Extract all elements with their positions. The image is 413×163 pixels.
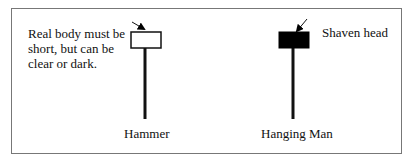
shaven-head-arrow-icon bbox=[297, 19, 307, 31]
hammer-label: Hammer bbox=[124, 126, 169, 141]
hanging-man-label: Hanging Man bbox=[261, 126, 333, 141]
note-left: Real body must be short, but can be clea… bbox=[28, 26, 133, 71]
hanging-man-candle bbox=[279, 19, 309, 119]
hammer-arrow-icon bbox=[132, 22, 144, 29]
hammer-candle bbox=[131, 22, 161, 119]
note-right: Shaven head bbox=[322, 25, 388, 40]
